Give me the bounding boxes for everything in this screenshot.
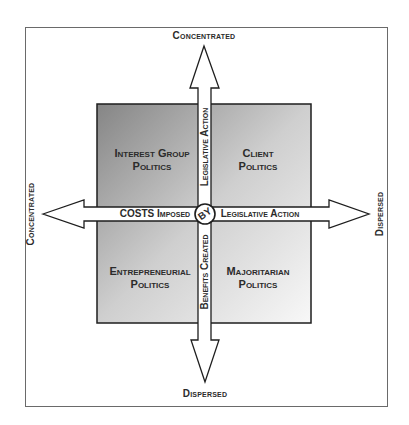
quadrant-label-line1: Majoritarian [213,265,303,278]
arrow-text-benefits-created: Benefits Created [200,234,210,309]
axis-label-bottom-dispersed: Dispersed [183,389,227,399]
quadrant-label-line1: Interest Group [107,147,197,160]
quadrant-label-line1: Client [213,147,303,160]
quadrant-majoritarian-politics: Majoritarian Politics [213,265,303,291]
quadrant-label-line1: Entrepreneurial [105,265,195,278]
axis-label-right-dispersed: Dispersed [375,192,385,236]
axis-label-left-concentrated: Concentrated [26,183,36,246]
quadrant-label-line2: Politics [213,160,303,173]
quadrant-entrepreneurial-politics: Entrepreneurial Politics [105,265,195,291]
arrow-text-legislative-action-horizontal: Legislative Action [221,209,300,219]
quadrant-client-politics: Client Politics [213,147,303,173]
quadrant-label-line2: Politics [213,278,303,291]
quadrant-label-line2: Politics [105,278,195,291]
arrow-text-legislative-action-vertical: Legislative Action [200,108,210,187]
quadrant-label-line2: Politics [107,160,197,173]
axis-label-top-concentrated: Concentrated [173,31,236,41]
arrow-text-costs-imposed: COSTS Imposed [120,209,190,219]
quadrant-interest-group-politics: Interest Group Politics [107,147,197,173]
